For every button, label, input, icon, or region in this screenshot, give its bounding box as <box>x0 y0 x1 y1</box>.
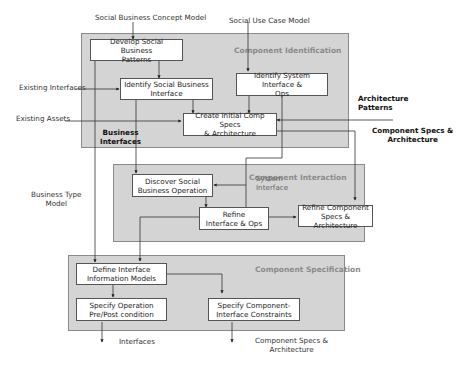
box-identify-social-business-interface[interactable]: Identify Social Business Interface <box>120 78 213 100</box>
flow-label-business-interfaces: Business Interfaces <box>100 128 141 147</box>
output-interfaces: Interfaces <box>119 337 155 346</box>
region-title-identification: Component Identification <box>234 46 341 55</box>
output-component-specs: Component Specs & Architecture <box>255 336 328 355</box>
input-existing-assets: Existing Assets <box>16 114 70 123</box>
box-define-interface-information-models[interactable]: Define Interface Information Models <box>76 263 167 285</box>
box-refine-interface-ops[interactable]: Refine Interface & Ops <box>199 207 269 230</box>
input-business-type-model: Business Type Model <box>31 190 82 209</box>
component-process-diagram: Component Identification Component Inter… <box>0 0 456 366</box>
box-specify-operation-condition[interactable]: Specify Operation Pre/Post condition <box>76 298 167 321</box>
flow-label-system-interface: System Interface <box>256 174 288 193</box>
box-refine-component-specs[interactable]: Refine Component Specs & Architecture <box>298 205 373 227</box>
box-identify-system-interface-ops[interactable]: Identify System Interface & Ops <box>236 73 328 96</box>
box-create-initial-comp-specs[interactable]: Create Initial Comp Specs & Architecture <box>183 113 277 136</box>
input-existing-interfaces: Existing Interfaces <box>19 83 86 92</box>
box-discover-social-business-operation[interactable]: Discover Social Business Operation <box>132 174 213 197</box>
region-title-specification: Component Specification <box>255 265 361 274</box>
box-develop-social-business-patterns[interactable]: Develop Social Business Patterns <box>90 39 183 61</box>
flow-label-component-specs-right: Component Specs & Architecture <box>372 126 453 145</box>
input-social-business-concept-model: Social Business Concept Model <box>95 13 206 22</box>
input-social-use-case-model: Social Use Case Model <box>229 16 310 25</box>
box-specify-component-interface-constraints[interactable]: Specify Component- Interface Constraints <box>208 298 300 321</box>
input-architecture-patterns: Architecture Patterns <box>358 94 409 113</box>
